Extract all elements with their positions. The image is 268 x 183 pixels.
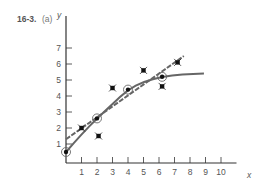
x-tick-label: 10 [216, 167, 226, 177]
circled-point-dot [160, 75, 164, 79]
fitted-curve [66, 74, 204, 152]
y-tick-label: 1 [56, 139, 61, 149]
circled-point-dot [95, 116, 99, 120]
x-tick-label: 8 [188, 167, 193, 177]
x-tick-label: 5 [141, 167, 146, 177]
circled-point-dot [64, 150, 68, 154]
x-tick-label: 1 [79, 167, 84, 177]
star-point-rays [78, 125, 85, 132]
x-tick-label: 7 [172, 167, 177, 177]
x-tick-label: 6 [157, 167, 162, 177]
y-tick-label: 5 [56, 75, 61, 85]
y-tick-label: 3 [56, 107, 61, 117]
y-tick-label: 2 [56, 123, 61, 133]
y-tick-label: 6 [56, 59, 61, 69]
x-tick-label: 3 [110, 167, 115, 177]
y-tick-label: 4 [56, 91, 61, 101]
x-tick-label: 4 [126, 167, 131, 177]
y-tick-label: 7 [56, 43, 61, 53]
circled-point-dot [126, 87, 130, 91]
star-point-rays [109, 85, 116, 92]
star-point-rays [159, 83, 166, 90]
x-tick-label: 9 [203, 167, 208, 177]
star-point-rays [95, 133, 102, 140]
star-point-rays [140, 67, 147, 74]
x-tick-label: 2 [95, 167, 100, 177]
chart-plot: 123456789101234567 [0, 0, 268, 183]
